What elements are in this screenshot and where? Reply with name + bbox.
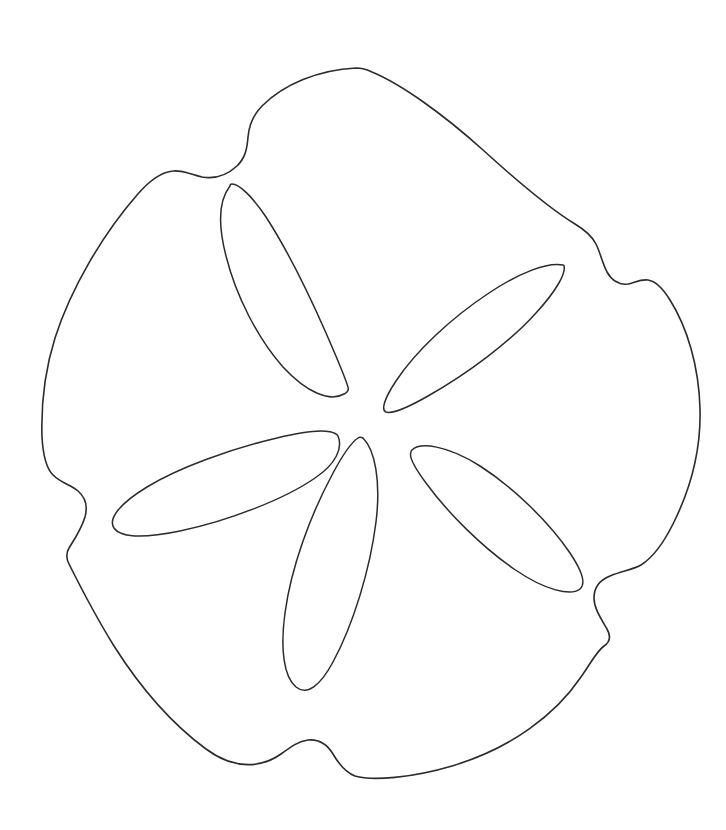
drawing-canvas — [0, 0, 726, 830]
canvas-background — [0, 0, 726, 830]
sand-dollar-line-drawing — [0, 0, 726, 830]
